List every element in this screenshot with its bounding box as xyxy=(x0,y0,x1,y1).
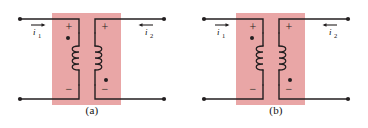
current-label-i1-a: i xyxy=(33,27,36,37)
terminal-node-bottom-left-a xyxy=(18,97,22,101)
polarity-plus-right-a: + xyxy=(102,20,109,34)
polarity-plus-right-b: + xyxy=(286,20,293,34)
figure-sheet: + + − − i 1 i 2 (a) xyxy=(0,0,368,128)
polarity-minus-right-b: − xyxy=(286,82,293,96)
current-subscript-i2-a: 2 xyxy=(150,32,153,39)
panel-a-caption: (a) xyxy=(0,104,184,116)
current-subscript-i1-a: 1 xyxy=(38,32,41,39)
terminal-node-top-left-a xyxy=(18,17,22,21)
terminal-node-top-right-a xyxy=(162,17,166,21)
current-subscript-i2-b: 2 xyxy=(334,32,337,39)
terminal-node-bottom-right-a xyxy=(162,97,166,101)
figure-panel-b: + + − − i 1 i 2 (b) xyxy=(184,0,368,128)
terminal-node-bottom-right-b xyxy=(346,97,350,101)
core-rect-b xyxy=(236,13,305,105)
core-rect-a xyxy=(52,13,121,105)
panel-b-caption: (b) xyxy=(184,104,368,116)
dot-marker-left-coil-a xyxy=(66,36,70,40)
current-subscript-i1-b: 1 xyxy=(222,32,225,39)
polarity-plus-left-a: + xyxy=(66,20,73,34)
polarity-plus-left-b: + xyxy=(250,20,257,34)
current-label-i2-b: i xyxy=(329,27,332,37)
current-label-i1-b: i xyxy=(217,27,220,37)
terminal-node-bottom-left-b xyxy=(202,97,206,101)
figure-panel-a: + + − − i 1 i 2 (a) xyxy=(0,0,184,128)
dot-marker-left-coil-b xyxy=(250,36,254,40)
terminal-node-top-right-b xyxy=(346,17,350,21)
current-label-i2-a: i xyxy=(145,27,148,37)
terminal-node-top-left-b xyxy=(202,17,206,21)
polarity-minus-left-b: − xyxy=(250,82,257,96)
polarity-minus-left-a: − xyxy=(66,82,73,96)
polarity-minus-right-a: − xyxy=(102,82,109,96)
